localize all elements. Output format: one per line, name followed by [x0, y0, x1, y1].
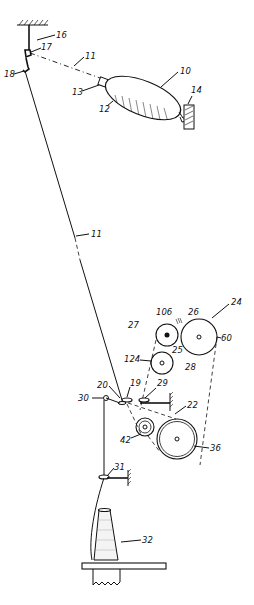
- label-24: 24: [231, 297, 242, 307]
- yarn-package-10: [98, 67, 188, 128]
- label-30: 30: [78, 393, 89, 403]
- roll-124: [151, 352, 173, 374]
- label-22: 22: [187, 400, 198, 410]
- label-18: 18: [4, 69, 15, 79]
- label-17: 17: [41, 42, 52, 52]
- label-60: 60: [221, 333, 232, 343]
- label-20: 20: [97, 380, 108, 390]
- guide-bracket-29: [118, 392, 173, 411]
- label-14: 14: [191, 85, 202, 95]
- label-106: 106: [156, 307, 173, 317]
- yarn-11-long: [25, 71, 75, 238]
- label-124: 124: [124, 354, 140, 364]
- label-32: 32: [142, 535, 153, 545]
- label-28: 28: [185, 362, 196, 372]
- label-13: 13: [72, 87, 83, 97]
- label-19: 19: [130, 378, 141, 388]
- label-42: 42: [120, 435, 131, 445]
- label-26: 26: [188, 307, 199, 317]
- label-36: 36: [210, 443, 221, 453]
- tension-device-22: [127, 403, 197, 459]
- label-11-top: 11: [85, 51, 96, 61]
- pulley-36: [157, 419, 197, 459]
- roll-60: [181, 319, 217, 355]
- label-11-mid: 11: [91, 229, 102, 239]
- label-25: 25: [172, 345, 183, 355]
- yarn-guide-18: [23, 58, 29, 72]
- label-16: 16: [56, 30, 67, 40]
- patent-drawing: 16 17 18 11 13 12 10 14 11 24 106 26 27 …: [0, 0, 254, 605]
- label-27: 27: [128, 320, 139, 330]
- bobbin-32: [82, 509, 166, 586]
- wall-mount-14: [184, 105, 194, 129]
- label-10: 10: [180, 66, 191, 76]
- label-29: 29: [157, 378, 168, 388]
- label-31: 31: [114, 462, 125, 472]
